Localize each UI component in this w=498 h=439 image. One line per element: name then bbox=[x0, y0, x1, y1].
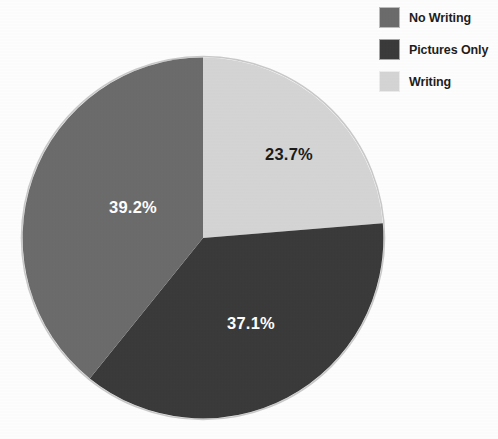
legend-item-label: No Writing bbox=[409, 11, 471, 25]
legend-item-label: Writing bbox=[409, 75, 451, 89]
slice-value-label-writing: 23.7% bbox=[265, 145, 313, 163]
legend-item-no-writing[interactable]: No Writing bbox=[379, 7, 498, 28]
legend-item-label: Pictures Only bbox=[409, 43, 488, 57]
pie-slices bbox=[23, 58, 384, 419]
legend-swatch-icon bbox=[379, 39, 400, 60]
legend-swatch-icon bbox=[379, 7, 400, 28]
legend-item-pictures-only[interactable]: Pictures Only bbox=[379, 39, 498, 60]
legend-item-writing[interactable]: Writing bbox=[379, 71, 498, 92]
pie-chart-svg: 23.7% 37.1% 39.2% bbox=[0, 0, 400, 439]
pie-chart-figure: 23.7% 37.1% 39.2% No Writing Pictures On… bbox=[0, 0, 498, 439]
chart-legend: No Writing Pictures Only Writing bbox=[379, 7, 498, 103]
slice-value-label-pictures-only: 37.1% bbox=[227, 314, 275, 332]
pie-chart-area: 23.7% 37.1% 39.2% bbox=[0, 0, 400, 439]
slice-value-label-no-writing: 39.2% bbox=[109, 198, 157, 216]
legend-swatch-icon bbox=[379, 71, 400, 92]
